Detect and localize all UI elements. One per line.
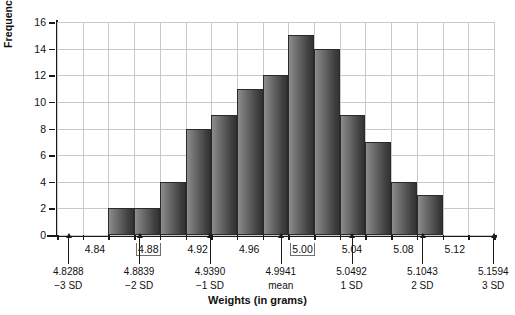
histogram-bar — [108, 208, 134, 235]
histogram-chart: Frequency 0246810121416 4.844.884.924.96… — [0, 0, 515, 315]
histogram-bar — [340, 115, 366, 235]
y-tick-mark — [49, 235, 55, 237]
y-tick-mark — [49, 49, 55, 51]
y-tick-mark — [49, 208, 55, 210]
sd-arrow-icon — [493, 237, 494, 264]
sd-arrow-icon — [422, 237, 423, 264]
y-tick-mark — [49, 22, 55, 24]
y-tick-mark — [49, 102, 55, 104]
gridline-horizontal — [57, 235, 494, 236]
gridline-vertical — [468, 22, 469, 235]
gridline-vertical — [443, 22, 444, 235]
sd-arrow-icon — [352, 237, 353, 264]
y-tick-label: 16 — [0, 17, 46, 27]
gridline-vertical — [57, 22, 58, 235]
x-tick-label: 4.84 — [85, 243, 105, 255]
gridline-vertical — [134, 22, 135, 235]
histogram-bar — [314, 49, 340, 235]
histogram-bar — [391, 182, 417, 235]
y-tick-mark — [49, 129, 55, 131]
x-tick-mark — [108, 235, 110, 240]
x-tick-label: 4.96 — [239, 243, 259, 255]
y-tick-label: 14 — [0, 44, 46, 54]
gridline-vertical — [108, 22, 109, 235]
histogram-bar — [160, 182, 186, 235]
x-tick-mark — [186, 235, 188, 240]
x-tick-mark — [160, 235, 162, 240]
gridline-horizontal — [57, 22, 494, 23]
y-tick-label: 10 — [0, 97, 46, 107]
sd-arrow-icon — [210, 237, 211, 264]
x-tick-mark — [288, 235, 290, 240]
y-tick-label: 12 — [0, 70, 46, 80]
y-tick-mark — [49, 75, 55, 77]
x-tick-mark — [134, 235, 136, 240]
x-tick-mark — [57, 235, 59, 240]
y-axis-title: Frequency — [2, 0, 14, 76]
y-tick-label: 4 — [0, 177, 46, 187]
sd-tag-label: 3 SD — [448, 280, 515, 291]
x-axis-title: Weights (in grams) — [0, 294, 515, 306]
x-tick-mark — [83, 235, 85, 240]
x-tick-mark — [391, 235, 393, 240]
sd-arrow-icon — [68, 237, 69, 264]
x-tick-mark — [263, 235, 265, 240]
plot-area — [57, 22, 494, 235]
x-tick-mark — [340, 235, 342, 240]
y-tick-label: 8 — [0, 124, 46, 134]
sd-arrow-icon — [139, 237, 140, 264]
x-tick-mark — [314, 235, 316, 240]
x-tick-mark — [365, 235, 367, 240]
histogram-bar — [186, 129, 212, 236]
gridline-vertical — [494, 22, 495, 235]
histogram-bar — [365, 142, 391, 235]
x-tick-label: 5.08 — [393, 243, 413, 255]
y-tick-label: 6 — [0, 150, 46, 160]
y-tick-label: 0 — [0, 230, 46, 240]
histogram-bar — [134, 208, 160, 235]
sd-value-label: 5.1594 — [448, 266, 515, 277]
x-tick-mark — [237, 235, 239, 240]
gridline-vertical — [83, 22, 84, 235]
histogram-bar — [288, 35, 314, 235]
x-tick-label: 5.00 — [290, 243, 314, 256]
x-tick-label: 4.92 — [188, 243, 208, 255]
gridline-horizontal — [57, 49, 494, 50]
y-tick-label: 2 — [0, 203, 46, 213]
y-tick-mark — [49, 155, 55, 157]
x-tick-mark — [417, 235, 419, 240]
sd-arrow-icon — [281, 237, 282, 264]
histogram-bar — [211, 115, 237, 235]
histogram-bar — [237, 89, 263, 235]
x-tick-mark — [443, 235, 445, 240]
histogram-bar — [417, 195, 443, 235]
y-tick-mark — [49, 182, 55, 184]
x-tick-mark — [468, 235, 470, 240]
x-tick-label: 5.12 — [445, 243, 465, 255]
histogram-bar — [263, 75, 289, 235]
